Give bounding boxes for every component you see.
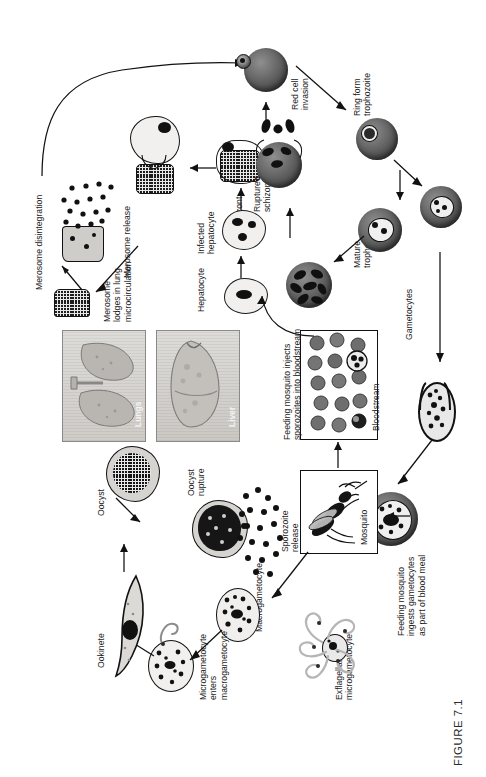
label-liver: Liver [227, 407, 237, 427]
label-feeding-mosquito-injects: Feeding mosquito injects sporozoites int… [282, 329, 303, 440]
label-feeding-mosquito-ingests: Feeding mosquito ingests gametocytes as … [396, 555, 427, 636]
arrow-release-to-lodge [86, 240, 142, 300]
label-oocyst-rupture: Oocyst rupture [186, 468, 207, 496]
label-ring-form-trophozoite: Ring form trophozoite [352, 73, 373, 116]
arrow-schizont-to-ruptured [282, 200, 298, 242]
figure-caption: FIGURE 7.1 [452, 699, 464, 766]
merosome-lodged [54, 289, 90, 317]
label-oocyst: Oocyst [96, 489, 106, 516]
label-lungs: Lungs [133, 402, 143, 427]
sporozoite-spray [238, 480, 308, 580]
label-infected-hepatocyte: Infected hepatocyte [196, 211, 217, 254]
label-hepatocyte: Hepatocyte [196, 268, 206, 312]
liver-photo: Liver [156, 330, 240, 442]
label-merosome-release: Merosome release [122, 206, 132, 278]
arrow-ingested-to-mosquito [376, 508, 412, 524]
bloodstream-box: Bloodstream [300, 330, 378, 440]
merozoite-dots [58, 178, 122, 234]
label-ookinete: Ookinete [96, 633, 106, 668]
arrow-gametocytes [432, 250, 448, 372]
arrow-ookinete-to-oocyst [116, 538, 132, 576]
arrow-redcell-to-ringform [292, 62, 356, 122]
label-bloodstream: Bloodstream [371, 383, 381, 431]
label-merosome-disintegration: Merosome disintegration [34, 195, 44, 290]
arrow-mosquito-to-bloodstream [330, 436, 346, 470]
ring-form-trophozoite [356, 118, 398, 160]
malaria-life-cycle-figure: Merosome disintegration Merosome lodges … [0, 0, 486, 777]
arrow-to-mature-trophozoite [392, 166, 408, 208]
arrow-macro-to-entering [182, 626, 226, 668]
label-gametocytes: Gametocytes [404, 289, 414, 340]
lungs-photo: Lungs [62, 330, 146, 442]
arrow-merosome-to-redcell [36, 30, 266, 180]
arrow-lodged-to-disintegration [52, 258, 88, 292]
arrow-gametocyte-to-ingested [388, 436, 436, 496]
arrow-oocyst-to-rupture [110, 494, 150, 534]
label-mosquito: Mosquito [359, 510, 369, 545]
mosquito-box: Mosquito [300, 470, 378, 554]
arrow-hepatocyte-to-infected [234, 250, 248, 280]
